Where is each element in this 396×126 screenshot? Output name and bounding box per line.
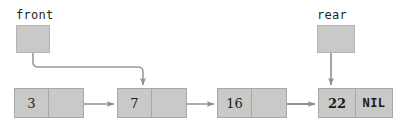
linked-list-diagram: front rear 3 7 16 22 NIL [0, 0, 396, 126]
node-nil-cell: NIL [355, 89, 392, 117]
node-data-cell: 7 [118, 89, 151, 117]
node-link-cell [151, 89, 186, 117]
rear-pointer-label: rear [317, 8, 347, 22]
rear-pointer-box [317, 25, 355, 53]
node-link-cell [251, 89, 286, 117]
front-pointer-label: front [16, 8, 54, 22]
node-data-cell: 3 [15, 89, 48, 117]
node-link-cell [48, 89, 83, 117]
list-node: 3 [14, 88, 84, 118]
list-node-tail: 22 NIL [318, 88, 393, 118]
list-node: 16 [217, 88, 287, 118]
node-data-cell: 16 [218, 89, 251, 117]
node-data-cell: 22 [319, 89, 355, 117]
front-pointer-box [16, 25, 50, 53]
list-node: 7 [117, 88, 187, 118]
front-pointer-arrow [33, 53, 143, 85]
